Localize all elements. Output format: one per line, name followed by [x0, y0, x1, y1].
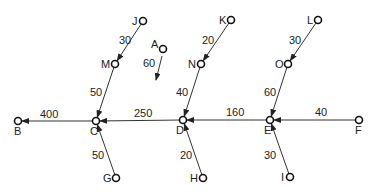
node-d-circle-icon — [180, 117, 187, 124]
node-label-a: A — [151, 38, 159, 50]
node-h-circle-icon — [200, 175, 207, 182]
dangling-weight-a: 60 — [143, 57, 155, 69]
node-j-circle-icon — [140, 18, 147, 25]
node-label-i: I — [281, 171, 284, 183]
node-label-k: K — [219, 14, 227, 26]
edge-weight-g-c: 50 — [92, 149, 104, 161]
node-b-circle-icon — [15, 118, 22, 125]
edge-d-to-c — [100, 120, 180, 121]
node-label-o: O — [275, 58, 284, 70]
node-i-circle-icon — [287, 174, 294, 181]
edge-weight-i-e: 30 — [264, 149, 276, 161]
edge-weight-j-m: 30 — [119, 34, 131, 46]
node-label-b: B — [14, 125, 21, 137]
edge-weight-h-d: 20 — [180, 149, 192, 161]
edge-weight-e-d: 160 — [226, 106, 244, 118]
node-label-n: N — [188, 58, 196, 70]
network-flow-diagram: 3050204030604002501604050203060 JAMKNLOB… — [0, 0, 376, 192]
node-e-circle-icon — [267, 117, 274, 124]
node-label-g: G — [103, 172, 112, 184]
edge-weight-k-n: 20 — [202, 34, 214, 46]
node-a-circle-icon — [160, 46, 167, 53]
node-label-e: E — [264, 124, 271, 136]
node-n-circle-icon — [198, 61, 205, 68]
node-label-l: L — [307, 14, 313, 26]
node-label-m: M — [101, 58, 110, 70]
edge-weight-f-e: 40 — [315, 106, 327, 118]
node-f-circle-icon — [356, 117, 363, 124]
node-label-c: C — [90, 125, 98, 137]
node-o-circle-icon — [285, 61, 292, 68]
node-label-d: D — [176, 124, 184, 136]
edge-weight-m-c: 50 — [90, 86, 102, 98]
edge-weight-c-b: 400 — [40, 108, 58, 120]
edge-weight-n-d: 40 — [176, 86, 188, 98]
node-label-j: J — [132, 15, 138, 27]
node-label-f: F — [355, 124, 362, 136]
edge-weight-d-c: 250 — [134, 107, 152, 119]
edge-weights-layer: 3050204030604002501604050203060 — [40, 34, 327, 161]
node-c-circle-icon — [93, 118, 100, 125]
node-m-circle-icon — [112, 61, 119, 68]
dangling-arrow-a — [156, 56, 162, 80]
edge-weight-o-e: 60 — [264, 86, 276, 98]
node-k-circle-icon — [228, 17, 235, 24]
edge-weight-l-o: 30 — [289, 34, 301, 46]
node-l-circle-icon — [315, 17, 322, 24]
node-label-h: H — [190, 172, 198, 184]
node-g-circle-icon — [113, 175, 120, 182]
